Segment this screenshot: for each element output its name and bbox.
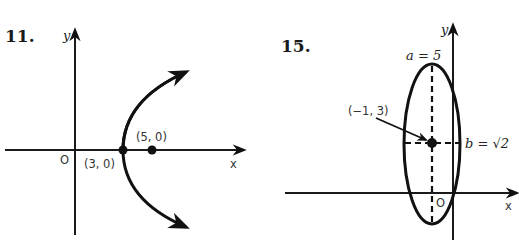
- origin-label: O: [436, 196, 445, 210]
- y-axis-label: y: [440, 22, 449, 37]
- focus-point: [148, 146, 157, 155]
- x-axis-label: x: [230, 157, 237, 171]
- diagram-canvas: 11. y x O (3, 0) (5, 0) 15. y x O (−1, 3…: [0, 0, 519, 248]
- figure-11: 11. y x O (3, 0) (5, 0): [5, 26, 244, 235]
- semi-major-label: a = 5: [406, 48, 441, 63]
- focus-label: (5, 0): [136, 130, 167, 144]
- figure-number-15: 15.: [281, 36, 311, 56]
- y-axis-label: y: [62, 28, 71, 43]
- center-label: (−1, 3): [348, 104, 389, 118]
- parabola-lower-branch: [123, 150, 186, 227]
- vertex-label: (3, 0): [84, 157, 115, 171]
- vertex-point: [119, 146, 128, 155]
- x-axis-label: x: [505, 199, 512, 213]
- figure-number-11: 11.: [5, 26, 35, 46]
- center-pointer-arrow: [376, 118, 426, 140]
- figure-15: 15. y x O (−1, 3) a = 5 b = √2: [281, 22, 517, 240]
- center-point: [427, 138, 437, 148]
- semi-minor-label: b = √2: [465, 136, 509, 151]
- origin-label: O: [60, 153, 69, 167]
